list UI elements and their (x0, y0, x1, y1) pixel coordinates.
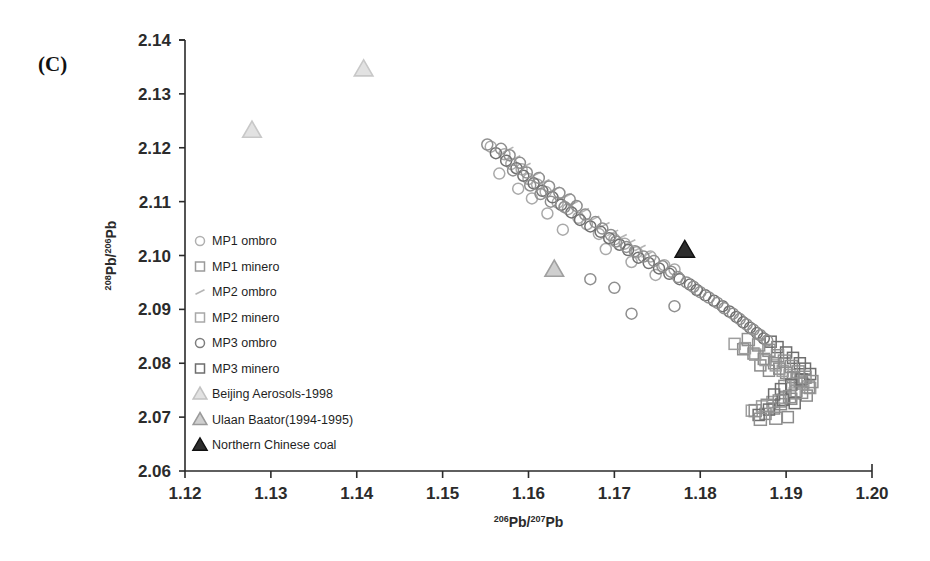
data-point (782, 412, 793, 423)
legend-marker-icon (193, 387, 207, 399)
series-northern-chinese-coal (675, 240, 695, 257)
y-tick-label: 2.07 (138, 408, 171, 427)
data-point (746, 405, 757, 416)
data-point (675, 240, 695, 257)
series-ulaan-baator-1994-1995 (545, 260, 564, 276)
figure-panel-c: (C) 2.062.072.082.092.102.112.122.132.14… (0, 0, 930, 561)
data-point (354, 60, 373, 76)
legend-item[interactable]: MP2 ombro (196, 285, 277, 299)
y-tick-label: 2.08 (138, 354, 171, 373)
x-tick-label: 1.17 (598, 484, 631, 503)
data-point (609, 282, 620, 293)
legend-item[interactable]: MP3 minero (196, 362, 280, 376)
legend-item[interactable]: MP1 minero (196, 260, 280, 274)
y-tick-label: 2.13 (138, 85, 171, 104)
legend-label: MP3 minero (212, 362, 279, 376)
data-point (494, 168, 505, 179)
chart-legend: MP1 ombroMP1 mineroMP2 ombroMP2 mineroMP… (193, 234, 353, 452)
legend-label: MP2 minero (212, 311, 279, 325)
data-point (585, 274, 596, 285)
legend-marker-icon (196, 262, 205, 271)
x-tick-label: 1.19 (770, 484, 803, 503)
legend-marker-icon (196, 237, 205, 246)
legend-item[interactable]: Ulaan Baator(1994-1995) (193, 413, 353, 427)
legend-marker-icon (193, 438, 207, 450)
x-tick-label: 1.16 (512, 484, 545, 503)
data-point (542, 208, 553, 219)
data-point (525, 180, 536, 191)
legend-item[interactable]: Beijing Aerosols-1998 (193, 387, 333, 401)
legend-label: MP2 ombro (212, 285, 277, 299)
x-tick-label: 1.18 (684, 484, 717, 503)
data-point (482, 139, 493, 150)
x-tick-label: 1.13 (254, 484, 287, 503)
y-tick-label: 2.11 (139, 193, 171, 212)
legend-marker-icon (196, 339, 205, 348)
x-tick-label: 1.14 (340, 484, 374, 503)
legend-label: MP3 ombro (212, 336, 277, 350)
data-point (557, 224, 568, 235)
y-tick-label: 2.14 (138, 31, 172, 50)
x-tick-label: 1.15 (426, 484, 459, 503)
y-tick-label: 2.06 (138, 462, 171, 481)
legend-label: MP1 minero (212, 260, 279, 274)
data-point (600, 244, 611, 255)
legend-item[interactable]: MP3 ombro (196, 336, 277, 350)
legend-marker-icon (196, 313, 205, 322)
legend-item[interactable]: Northern Chinese coal (193, 438, 337, 452)
data-point (545, 260, 564, 276)
x-tick-label: 1.20 (855, 484, 888, 503)
data-point (513, 183, 524, 194)
legend-item[interactable]: MP1 ombro (196, 234, 277, 248)
x-tick-label: 1.12 (168, 484, 201, 503)
legend-marker-icon (196, 364, 205, 373)
legend-label: Ulaan Baator(1994-1995) (212, 413, 353, 427)
y-tick-label: 2.12 (138, 139, 171, 158)
legend-label: MP1 ombro (212, 234, 277, 248)
data-point (626, 308, 637, 319)
legend-marker-icon (196, 290, 205, 295)
legend-marker-icon (193, 413, 207, 425)
series-beijing-aerosols-1998 (243, 60, 373, 137)
y-tick-label: 2.10 (138, 247, 171, 266)
data-point (669, 301, 680, 312)
data-point (243, 121, 262, 137)
legend-label: Beijing Aerosols-1998 (212, 387, 333, 401)
y-axis-title: 208Pb/206Pb (103, 221, 119, 291)
x-axis-title: 206Pb/207Pb (494, 514, 564, 530)
legend-item[interactable]: MP2 minero (196, 311, 280, 325)
data-points (243, 60, 818, 425)
scatter-plot: 2.062.072.082.092.102.112.122.132.141.12… (0, 0, 930, 561)
y-tick-label: 2.09 (138, 300, 171, 319)
legend-label: Northern Chinese coal (212, 438, 336, 452)
